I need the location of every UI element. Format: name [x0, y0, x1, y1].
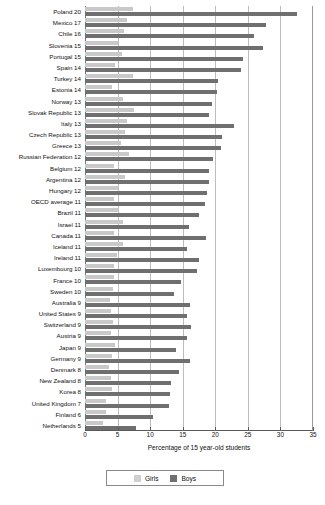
y-axis-label: Australia 9	[52, 299, 81, 306]
x-tick-label: 20	[212, 431, 219, 438]
bar-girls	[85, 164, 114, 168]
bar-row	[85, 241, 312, 252]
bar-row	[85, 308, 312, 319]
bar-girls	[85, 231, 114, 235]
x-tick-label: 10	[147, 431, 154, 438]
bar-girls	[85, 41, 118, 45]
bar-girls	[85, 7, 133, 11]
y-axis-label: Korea 8	[59, 388, 81, 395]
bar-row	[85, 330, 312, 341]
y-axis-label: Canada 11	[51, 232, 81, 239]
x-axis-title: Percentage of 15 year-old students	[85, 444, 313, 451]
y-axis-label: Chile 16	[58, 30, 81, 37]
x-tick-label: 30	[277, 431, 284, 438]
bar-girls	[85, 421, 103, 425]
bar-row	[85, 353, 312, 364]
bar-boys	[85, 225, 189, 229]
y-axis-label: Brazil 11	[57, 209, 81, 216]
bar-girls	[85, 130, 125, 134]
bar-boys	[85, 359, 190, 363]
bar-row	[85, 151, 312, 162]
y-axis-label: Russian Federation 12	[19, 153, 81, 160]
bar-row	[85, 409, 312, 420]
bar-girls	[85, 108, 134, 112]
x-tick-label: 15	[179, 431, 186, 438]
bar-row	[85, 107, 312, 118]
bar-girls	[85, 410, 106, 414]
bar-boys	[85, 336, 187, 340]
bar-boys	[85, 236, 206, 240]
bar-row	[85, 84, 312, 95]
bar-boys	[85, 280, 181, 284]
y-axis-label: Hungary 12	[49, 187, 81, 194]
bar-boys	[85, 68, 241, 72]
bar-girls	[85, 74, 133, 78]
bar-girls	[85, 354, 112, 358]
bar-boys	[85, 23, 266, 27]
legend-swatch-girls	[134, 475, 141, 482]
bar-girls	[85, 63, 115, 67]
bar-boys	[85, 146, 221, 150]
bar-boys	[85, 79, 218, 83]
bar-row	[85, 118, 312, 129]
y-axis-label: Sweden 10	[50, 288, 81, 295]
bar-boys	[85, 370, 179, 374]
y-axis-label: Estonia 14	[52, 86, 81, 93]
y-axis-label: Netherlands 5	[42, 422, 81, 429]
x-tick-label: 25	[244, 431, 251, 438]
bar-boys	[85, 348, 176, 352]
bar-girls	[85, 152, 129, 156]
bar-girls	[85, 399, 106, 403]
bar-girls	[85, 253, 117, 257]
bar-boys	[85, 415, 153, 419]
bar-girls	[85, 52, 122, 56]
bar-boys	[85, 426, 136, 430]
bar-boys	[85, 57, 243, 61]
bar-girls	[85, 141, 121, 145]
bar-boys	[85, 292, 174, 296]
bar-row	[85, 342, 312, 353]
bar-girls	[85, 365, 109, 369]
y-axis-label: Denmark 8	[51, 366, 81, 373]
bar-row	[85, 397, 312, 408]
bar-row	[85, 252, 312, 263]
x-tick-label: 35	[309, 431, 316, 438]
bar-row	[85, 230, 312, 241]
legend-label-boys: Boys	[181, 475, 196, 482]
y-axis-label: New Zealand 8	[39, 377, 81, 384]
x-tick-label: 0	[83, 431, 87, 438]
bar-boys	[85, 303, 190, 307]
bar-boys	[85, 213, 199, 217]
legend-item-girls: Girls	[134, 475, 159, 482]
x-axis-ticks: 05101520253035	[85, 431, 313, 443]
y-axis-label: Japan 9	[59, 344, 81, 351]
bar-boys	[85, 202, 205, 206]
bar-row	[85, 51, 312, 62]
y-axis-label: Mexico 17	[53, 19, 81, 26]
bar-boys	[85, 404, 169, 408]
bar-boys	[85, 102, 212, 106]
bar-boys	[85, 12, 297, 16]
bar-boys	[85, 180, 209, 184]
bar-girls	[85, 343, 115, 347]
y-axis-label: Portugal 15	[49, 53, 81, 60]
x-tick-label: 5	[116, 431, 120, 438]
y-axis-label: United Kingdom 7	[32, 400, 81, 407]
y-axis-label: Norway 13	[51, 98, 81, 105]
legend-swatch-boys	[170, 475, 177, 482]
y-axis-label: Czech Republic 13	[29, 131, 81, 138]
bar-girls	[85, 197, 114, 201]
bar-row	[85, 163, 312, 174]
bar-row	[85, 73, 312, 84]
bar-girls	[85, 275, 114, 279]
bar-row	[85, 286, 312, 297]
bar-row	[85, 6, 312, 17]
bar-boys	[85, 157, 213, 161]
y-axis-label: Israel 11	[58, 221, 81, 228]
bar-girls	[85, 18, 127, 22]
plot-area	[85, 6, 313, 431]
y-axis-label: Turkey 14	[54, 75, 81, 82]
bar-row	[85, 28, 312, 39]
bar-row	[85, 219, 312, 230]
y-axis-label: France 10	[53, 277, 81, 284]
